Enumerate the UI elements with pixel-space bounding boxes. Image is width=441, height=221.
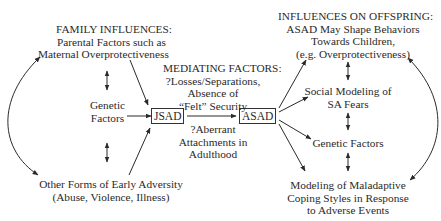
maladaptive-coping-line2: Coping Styles in Response	[283, 192, 413, 205]
mediating-factors-bottom: ?Aberrant Attachments in Adulthood	[163, 123, 263, 161]
maladaptive-coping-line3: to Adverse Events	[283, 204, 413, 217]
left-curved-double-arrow	[8, 57, 40, 175]
social-modeling-line2: SA Fears	[298, 98, 398, 111]
social-modeling-line1: Social Modeling of	[298, 85, 398, 98]
early-adversity-node: Other Forms of Early Adversity (Abuse, V…	[36, 178, 186, 203]
genetic-factors-left-line2: Factors	[80, 112, 135, 125]
family-influences-line2: Maternal Overprotectiveness	[38, 48, 198, 61]
social-modeling-node: Social Modeling of SA Fears	[298, 85, 398, 110]
genetic-factors-left-line1: Genetic	[80, 99, 135, 112]
influences-on-offspring-node: INFLUENCES ON OFFSPRING: ASAD May Shape …	[278, 10, 428, 60]
mediating-factors-line2: Absence of	[163, 87, 263, 100]
genetic-factors-right: Genetic Factors	[298, 137, 398, 150]
genetic-factors-left-node: Genetic Factors	[80, 99, 135, 124]
influences-on-offspring-line1: ASAD May Shape Behaviors	[278, 23, 428, 36]
mediating-factors-line4: ?Aberrant	[163, 123, 263, 136]
family-influences-node: FAMILY INFLUENCES: Parental Factors such…	[38, 23, 198, 61]
right-curved-double-arrow	[408, 58, 438, 180]
influences-on-offspring-line2: Towards Children,	[278, 35, 428, 48]
influences-on-offspring-heading: INFLUENCES ON OFFSPRING:	[278, 10, 428, 23]
mediating-factors-line1: ?Losses/Separations,	[163, 75, 263, 88]
mediating-factors-top: MEDIATING FACTORS: ?Losses/Separations, …	[163, 62, 263, 112]
maladaptive-coping-node: Modeling of Maladaptive Coping Styles in…	[283, 179, 413, 217]
family-influences-heading: FAMILY INFLUENCES:	[38, 23, 198, 36]
early-adversity-line2: (Abuse, Violence, Illness)	[36, 191, 186, 204]
family-influences-line1: Parental Factors such as	[38, 36, 198, 49]
early-adversity-line1: Other Forms of Early Adversity	[36, 178, 186, 191]
influences-on-offspring-line3: (e.g. Overprotectiveness)	[278, 48, 428, 61]
maladaptive-coping-line1: Modeling of Maladaptive	[283, 179, 413, 192]
mediating-factors-heading: MEDIATING FACTORS:	[163, 62, 263, 75]
mediating-factors-line3: “Felt” Security	[163, 100, 263, 113]
mediating-factors-line6: Adulthood	[163, 148, 263, 161]
mediating-factors-line5: Attachments in	[163, 136, 263, 149]
